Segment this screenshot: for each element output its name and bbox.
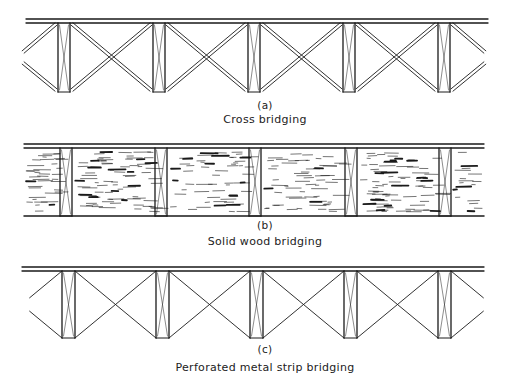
panel-a-letter: (a) xyxy=(0,99,508,111)
panel-c-letter: (c) xyxy=(0,343,508,355)
panel-c-caption: Perforated metal strip bridging xyxy=(0,361,508,374)
metal-strip-bridging-drawing xyxy=(22,267,484,338)
bridging-diagram xyxy=(0,0,508,379)
panel-b-letter: (b) xyxy=(0,219,508,231)
solid-wood-bridging-drawing xyxy=(24,144,484,216)
panel-a-caption: Cross bridging xyxy=(0,113,508,126)
panel-b-caption: Solid wood bridging xyxy=(0,235,508,248)
cross-bridging-drawing xyxy=(22,19,488,92)
